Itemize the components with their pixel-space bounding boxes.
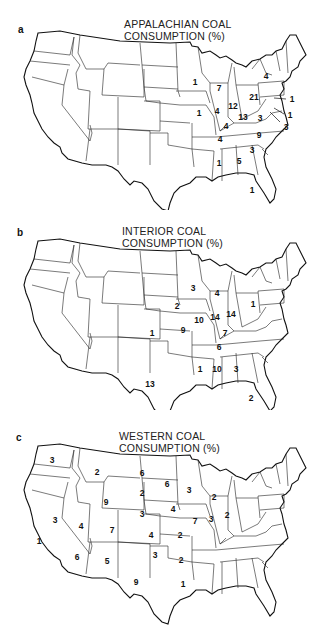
value-label: 7	[223, 328, 228, 338]
value-label: 3	[153, 550, 158, 560]
value-label: 10	[194, 315, 204, 325]
panel-interior: b INTERIOR COAL CONSUMPTION (%) 3 4 2 1 …	[0, 205, 313, 410]
value-label: 6	[217, 342, 222, 352]
value-label: 4	[171, 504, 176, 514]
value-label: 3	[250, 145, 255, 155]
value-label: 2	[95, 467, 100, 477]
value-label: 2	[225, 510, 230, 520]
value-label: 13	[238, 112, 248, 122]
value-label: 1	[37, 536, 42, 546]
value-label: 2	[140, 488, 145, 498]
us-map: 1 7 4 21 1 4 12 13 3 4 4 9 3 1 5 1 1 1 3	[0, 0, 313, 210]
value-label: 3	[191, 283, 196, 293]
value-label: 4	[224, 121, 229, 131]
us-map: 3 4 2 1 10 14 14 1 9 7 6 1 10 3 13 2	[0, 205, 313, 410]
value-label: 1	[288, 110, 293, 120]
value-label: 3	[53, 515, 58, 525]
value-label: 12	[228, 101, 238, 111]
panel-western: c WESTERN COAL CONSUMPTION (%) 3 2 6 6 3…	[0, 410, 313, 628]
value-label: 2	[175, 301, 180, 311]
panel-appalachian: a APPALACHIAN COAL CONSUMPTION (%) 1 7 4…	[0, 0, 313, 210]
value-label: 4	[264, 71, 269, 81]
value-label: 1	[251, 299, 256, 309]
value-label: 4	[215, 288, 220, 298]
value-label: 3	[140, 509, 145, 519]
value-label: 2	[178, 530, 183, 540]
value-label: 6	[140, 468, 145, 478]
value-label: 1	[193, 77, 198, 87]
value-label: 1	[181, 579, 186, 589]
value-label: 7	[217, 83, 222, 93]
value-label: 13	[145, 379, 155, 389]
value-label: 9	[181, 325, 186, 335]
value-label: 1	[217, 158, 222, 168]
value-label: 3	[258, 113, 263, 123]
value-label: 9	[257, 130, 262, 140]
value-label: 1	[198, 364, 203, 374]
value-label: 2	[179, 555, 184, 565]
value-label: 10	[212, 364, 222, 374]
value-label: 14	[210, 312, 220, 322]
value-label: 3	[284, 122, 289, 132]
value-label: 4	[149, 530, 154, 540]
value-label: 14	[226, 309, 236, 319]
value-label: 1	[150, 328, 155, 338]
value-label: 6	[165, 479, 170, 489]
value-label: 4	[215, 106, 220, 116]
value-label: 3	[187, 485, 192, 495]
value-label: 1	[250, 185, 255, 195]
value-label: 2	[212, 492, 217, 502]
value-label: 3	[50, 455, 55, 465]
value-label: 9	[104, 497, 109, 507]
value-label: 9	[134, 577, 139, 587]
value-label: 7	[110, 525, 115, 535]
value-label: 5	[105, 556, 110, 566]
value-label: 3	[234, 364, 239, 374]
value-label: 7	[193, 516, 198, 526]
value-label: 5	[237, 156, 242, 166]
value-label: 4	[218, 134, 223, 144]
us-map: 3 2 6 6 3 2 2 9 3 4 3 4 7 7 3 2 1 4 2 6 …	[0, 410, 313, 628]
value-label: 21	[249, 92, 259, 102]
value-label: 6	[75, 552, 80, 562]
value-label: 3	[209, 514, 214, 524]
value-label: 2	[249, 393, 254, 403]
value-label: 4	[79, 521, 84, 531]
value-label: 1	[197, 108, 202, 118]
value-label: 1	[290, 94, 295, 104]
